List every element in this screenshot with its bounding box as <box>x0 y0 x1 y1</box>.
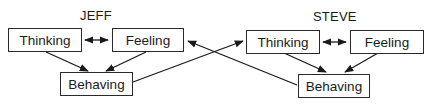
jeff-thinking-node: Thinking <box>8 28 82 52</box>
group-label-jeff: JEFF <box>80 8 112 23</box>
edge-steve-feeling-behaving <box>345 53 378 72</box>
steve-feeling-node: Feeling <box>350 30 424 54</box>
edge-jeff-thinking-behaving <box>46 52 88 71</box>
jeff-behaving-node: Behaving <box>60 72 133 96</box>
steve-thinking-node: Thinking <box>246 30 320 54</box>
group-label-steve: STEVE <box>313 9 357 24</box>
edge-steve-thinking-behaving <box>284 53 326 72</box>
jeff-feeling-node: Feeling <box>112 28 184 52</box>
steve-behaving-node: Behaving <box>298 74 370 98</box>
edge-jeff-feeling-behaving <box>106 52 146 71</box>
